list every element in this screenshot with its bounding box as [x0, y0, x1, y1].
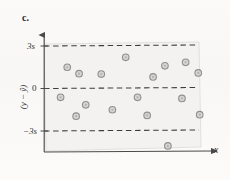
x-axis [44, 151, 212, 152]
data-point [182, 59, 189, 66]
data-point [150, 74, 157, 81]
data-point [179, 95, 186, 102]
data-point [82, 101, 89, 108]
data-point [165, 143, 172, 150]
data-point [98, 71, 105, 78]
data-point [76, 70, 83, 77]
data-point [109, 106, 116, 113]
y-tick-label-zero: 0 [32, 83, 37, 93]
y-tick-label-upper: 3s [27, 41, 35, 51]
data-point [64, 64, 71, 71]
data-point [195, 70, 202, 77]
data-point [57, 94, 64, 101]
data-point [73, 113, 80, 120]
y-tick-label-lower: −3s [23, 126, 37, 136]
data-point [162, 63, 169, 70]
y-axis-label: (y − ŷ) [18, 67, 28, 127]
x-axis-label: x [214, 145, 218, 155]
data-point [196, 111, 203, 118]
data-point [134, 94, 141, 101]
data-point [122, 54, 129, 61]
data-point [144, 112, 151, 119]
figure-container: c. [0, 0, 230, 180]
